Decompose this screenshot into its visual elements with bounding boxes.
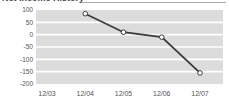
x-tick-label: 12/06 bbox=[153, 90, 171, 97]
x-tick-label: 12/05 bbox=[115, 90, 133, 97]
x-tick-label: 12/07 bbox=[191, 90, 209, 97]
y-tick-label: 50 bbox=[26, 19, 34, 26]
y-tick-label: -150 bbox=[20, 68, 33, 75]
y-tick-label: -100 bbox=[20, 56, 33, 63]
line-chart-plot: 100500-50-100-150-20012/0312/0412/0512/0… bbox=[0, 0, 229, 105]
y-tick-label: -200 bbox=[20, 80, 33, 87]
y-tick-label: 0 bbox=[29, 31, 33, 38]
y-tick-label: -50 bbox=[24, 43, 34, 50]
data-point-marker bbox=[198, 71, 203, 76]
x-tick-label: 12/03 bbox=[38, 90, 56, 97]
data-point-marker bbox=[159, 35, 164, 40]
data-point-marker bbox=[121, 30, 126, 35]
y-tick-label: 100 bbox=[22, 6, 33, 13]
data-point-marker bbox=[83, 11, 88, 16]
x-tick-label: 12/04 bbox=[76, 90, 94, 97]
net-income-history-chart: Net Income History 100500-50-100-150-200… bbox=[0, 0, 229, 105]
